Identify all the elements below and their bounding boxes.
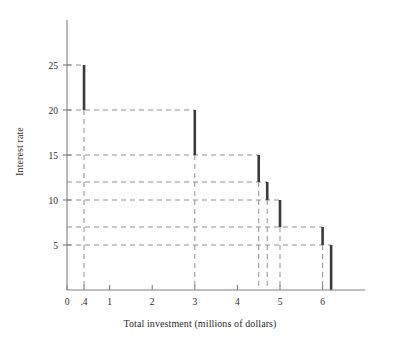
y-tick-label-10: 10 [49,196,59,206]
horizontal-gridlines-group [67,65,331,245]
investment-demand-chart: 0.4123456 510152025 Total investment (mi… [0,0,400,344]
vertical-gridlines-group [84,65,331,290]
x-tick-label-3: 3 [192,297,197,307]
x-tick-label-1: 1 [107,297,112,307]
chart-plot-area: 0.4123456 510152025 [0,0,400,344]
x-tick-label-4: 4 [235,297,240,307]
y-tick-label-5: 5 [53,241,58,251]
x-axis-title: Total investment (millions of dollars) [0,318,400,329]
x-tick-label-.4: .4 [80,297,87,307]
y-axis-tick-labels-group: 510152025 [49,61,59,251]
x-axis-ticks-group [67,285,323,290]
x-tick-label-5: 5 [278,297,283,307]
y-tick-label-15: 15 [49,151,59,161]
step-function-series [84,65,331,290]
axes-group [67,20,365,290]
x-tick-label-2: 2 [150,297,155,307]
y-tick-label-20: 20 [49,106,59,116]
y-tick-label-25: 25 [49,61,59,71]
x-tick-label-0: 0 [65,297,70,307]
y-axis-title: Interest rate [14,97,25,207]
x-axis-tick-labels-group: 0.4123456 [65,297,326,307]
x-tick-label-6: 6 [320,297,325,307]
